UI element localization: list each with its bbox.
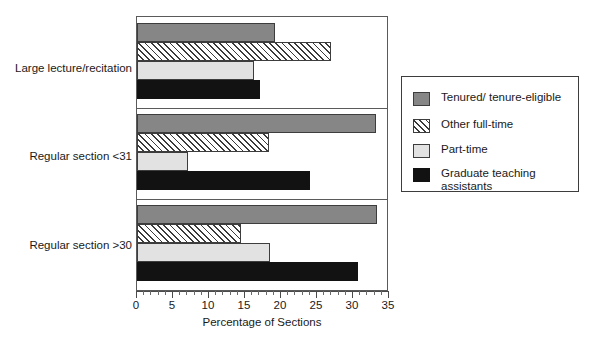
plot-area xyxy=(136,16,388,291)
bar-group-regular-lt31 xyxy=(137,108,387,199)
bar-0-3 xyxy=(137,80,260,99)
x-tick-minor-4 xyxy=(165,291,166,295)
x-tick-major-30 xyxy=(352,291,353,298)
x-tick-minor-8 xyxy=(194,291,195,295)
x-tick-minor-32 xyxy=(366,291,367,295)
category-label-0: Large lecture/recitation xyxy=(2,62,132,75)
bar-2-1 xyxy=(137,224,241,243)
bar-1-2 xyxy=(137,152,188,171)
x-tick-minor-34 xyxy=(381,291,382,295)
legend-swatch-3 xyxy=(413,168,430,182)
x-tick-minor-23 xyxy=(302,291,303,295)
bar-1-1 xyxy=(137,133,269,152)
x-tick-major-5 xyxy=(172,291,173,298)
x-tick-minor-31 xyxy=(359,291,360,295)
x-tick-label-2: 10 xyxy=(202,299,215,311)
category-axis-labels: Large lecture/recitation Regular section… xyxy=(0,0,132,342)
legend-item-1[interactable]: Other full-time xyxy=(413,118,513,133)
legend-swatch-1 xyxy=(413,119,430,133)
bar-1-3 xyxy=(137,171,310,190)
legend: Tenured/ tenure-eligibleOther full-timeP… xyxy=(401,76,579,192)
x-tick-label-6: 30 xyxy=(346,299,359,311)
x-tick-minor-28 xyxy=(338,291,339,295)
x-tick-major-10 xyxy=(208,291,209,298)
bar-2-0 xyxy=(137,205,377,224)
x-axis: 05101520253035 xyxy=(136,291,388,303)
x-axis-line xyxy=(136,291,388,292)
x-tick-label-7: 35 xyxy=(382,299,395,311)
x-tick-minor-9 xyxy=(201,291,202,295)
category-label-1: Regular section <31 xyxy=(2,150,132,163)
x-tick-label-5: 25 xyxy=(310,299,323,311)
x-tick-minor-13 xyxy=(230,291,231,295)
bar-group-large-lecture xyxy=(137,17,387,108)
legend-label-1: Other full-time xyxy=(441,118,513,131)
legend-item-0[interactable]: Tenured/ tenure-eligible xyxy=(413,91,561,106)
legend-item-3[interactable]: Graduate teaching assistants xyxy=(413,167,536,193)
bar-group-regular-gt30 xyxy=(137,199,387,290)
x-tick-minor-29 xyxy=(345,291,346,295)
x-tick-minor-3 xyxy=(158,291,159,295)
x-tick-major-35 xyxy=(388,291,389,298)
bar-2-3 xyxy=(137,262,358,281)
x-tick-minor-11 xyxy=(215,291,216,295)
bar-0-1 xyxy=(137,42,331,61)
x-tick-minor-19 xyxy=(273,291,274,295)
x-tick-minor-18 xyxy=(266,291,267,295)
x-tick-minor-14 xyxy=(237,291,238,295)
bar-chart: Large lecture/recitation Regular section… xyxy=(0,0,611,342)
category-label-2: Regular section >30 xyxy=(2,239,132,252)
x-tick-minor-2 xyxy=(150,291,151,295)
x-tick-minor-16 xyxy=(251,291,252,295)
x-tick-major-25 xyxy=(316,291,317,298)
x-tick-minor-22 xyxy=(294,291,295,295)
bar-1-0 xyxy=(137,114,376,133)
x-tick-label-3: 15 xyxy=(238,299,251,311)
x-tick-label-0: 0 xyxy=(133,299,139,311)
x-tick-major-0 xyxy=(136,291,137,298)
legend-label-0: Tenured/ tenure-eligible xyxy=(441,91,561,104)
x-tick-minor-33 xyxy=(374,291,375,295)
x-tick-minor-24 xyxy=(309,291,310,295)
x-tick-label-4: 20 xyxy=(274,299,287,311)
legend-label-3: Graduate teaching assistants xyxy=(441,167,536,193)
legend-swatch-0 xyxy=(413,92,430,106)
x-tick-minor-17 xyxy=(258,291,259,295)
x-tick-minor-6 xyxy=(179,291,180,295)
x-tick-major-15 xyxy=(244,291,245,298)
bar-0-2 xyxy=(137,61,254,80)
x-tick-minor-26 xyxy=(323,291,324,295)
legend-label-2: Part-time xyxy=(441,143,488,156)
legend-swatch-2 xyxy=(413,144,430,158)
x-tick-major-20 xyxy=(280,291,281,298)
x-tick-minor-27 xyxy=(330,291,331,295)
x-tick-label-1: 5 xyxy=(169,299,175,311)
x-axis-title: Percentage of Sections xyxy=(136,316,388,328)
x-tick-minor-7 xyxy=(186,291,187,295)
x-tick-minor-21 xyxy=(287,291,288,295)
bar-0-0 xyxy=(137,23,275,42)
legend-item-2[interactable]: Part-time xyxy=(413,143,488,158)
x-tick-minor-12 xyxy=(222,291,223,295)
x-tick-minor-1 xyxy=(143,291,144,295)
bar-2-2 xyxy=(137,243,270,262)
